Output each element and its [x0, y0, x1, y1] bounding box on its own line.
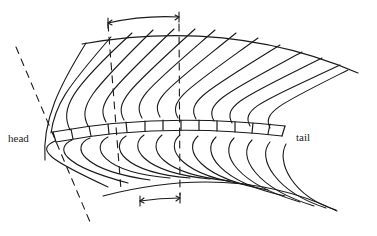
undulation-diagram: head tail	[0, 0, 377, 236]
lower-wavelength-marker	[140, 193, 180, 206]
dashed-reference-lines	[16, 24, 180, 222]
tail-label: tail	[296, 131, 310, 143]
lower-boundary-curve	[103, 182, 337, 211]
upper-wavelength-marker	[108, 12, 179, 28]
lower-wave-lines	[47, 135, 336, 210]
head-label: head	[8, 132, 29, 144]
diagram-svg	[0, 0, 377, 236]
